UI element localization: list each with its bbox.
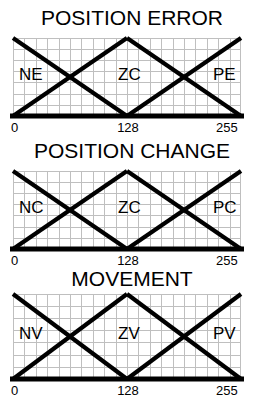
plot-box: NV ZV PV	[13, 294, 241, 379]
x-tick-label-min: 0	[11, 383, 18, 398]
x-axis-tick-labels: 0 128 255	[0, 120, 264, 136]
plot-area: NC ZC PC	[13, 171, 241, 249]
mf-label-right: PC	[213, 199, 237, 217]
figure-canvas: POSITION ERROR	[0, 0, 264, 408]
x-tick-label-mid: 128	[111, 253, 145, 268]
x-tick-label-min: 0	[11, 253, 18, 268]
chart-title: MOVEMENT	[0, 267, 264, 290]
mf-label-left: NC	[19, 199, 44, 217]
plot-area: NV ZV PV	[13, 294, 241, 379]
mf-label-center: ZC	[118, 199, 141, 217]
x-tick-label-max: 255	[216, 253, 238, 268]
plot-box: NE ZC PE	[13, 38, 241, 116]
x-tick-label-min: 0	[11, 120, 18, 135]
x-tick-label-mid: 128	[111, 120, 145, 135]
mf-label-left: NV	[19, 325, 43, 343]
x-tick-label-mid: 128	[111, 383, 145, 398]
mf-label-left: NE	[19, 66, 43, 84]
plot-box: NC ZC PC	[13, 171, 241, 249]
mf-label-right: PV	[213, 325, 236, 343]
plot-area: NE ZC PE	[13, 38, 241, 116]
x-tick-label-max: 255	[216, 383, 238, 398]
mf-label-center: ZV	[118, 325, 140, 343]
chart-title: POSITION CHANGE	[0, 139, 264, 162]
mf-label-right: PE	[213, 66, 236, 84]
mf-label-center: ZC	[118, 66, 141, 84]
chart-title: POSITION ERROR	[0, 6, 264, 29]
x-axis-tick-labels: 0 128 255	[0, 383, 264, 399]
x-tick-label-max: 255	[216, 120, 238, 135]
